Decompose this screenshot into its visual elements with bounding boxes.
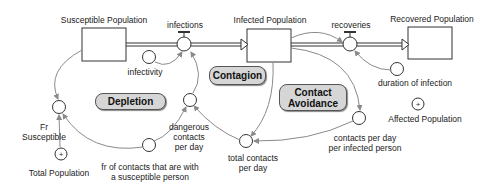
aux-dangerous-contacts[interactable] <box>184 94 197 107</box>
label-fr-susceptible: Fr Susceptible <box>22 122 66 142</box>
label-susceptible-population: Susceptible Population <box>61 15 147 25</box>
loop-contact-avoidance: Contact Avoidance <box>279 84 347 111</box>
label-infected-population: Infected Population <box>234 15 307 25</box>
aux-contacts-per-infected[interactable] <box>353 112 366 125</box>
label-dangerous-contacts: dangerous contacts per day <box>169 122 209 152</box>
label-total-contacts: total contacts per day <box>228 153 278 173</box>
label-total-population: Total Population <box>29 168 90 178</box>
label-infections: infections <box>167 20 203 30</box>
stock-susceptible-population[interactable] <box>82 28 126 61</box>
svg-text:+: + <box>59 150 64 159</box>
valve-infections[interactable] <box>177 32 191 51</box>
valve-recoveries[interactable] <box>343 32 357 51</box>
summary-total-population[interactable]: + <box>55 148 67 160</box>
aux-duration-of-infection[interactable] <box>391 63 404 76</box>
label-infectivity: infectivity <box>128 67 163 77</box>
label-fr-contacts: fr of contacts that are with a susceptib… <box>101 162 198 182</box>
aux-infectivity[interactable] <box>143 51 156 64</box>
svg-text:+: + <box>416 100 421 109</box>
label-recovered-population: Recovered Population <box>390 14 474 24</box>
loop-contagion: Contagion <box>209 66 266 85</box>
aux-fr-contacts[interactable] <box>143 139 156 152</box>
label-duration-of-infection: duration of infection <box>378 78 452 88</box>
label-contacts-per-infected: contacts per day per infected person <box>329 133 402 153</box>
aux-total-contacts[interactable] <box>240 135 253 148</box>
label-recoveries: recoveries <box>331 20 370 30</box>
loop-depletion: Depletion <box>95 93 166 110</box>
label-affected-population: Affected Population <box>388 114 462 124</box>
summary-affected-population[interactable]: + <box>412 98 424 110</box>
stock-infected-population[interactable] <box>247 29 291 62</box>
stock-recovered-population[interactable] <box>408 27 452 59</box>
aux-fr-susceptible[interactable] <box>53 101 66 114</box>
